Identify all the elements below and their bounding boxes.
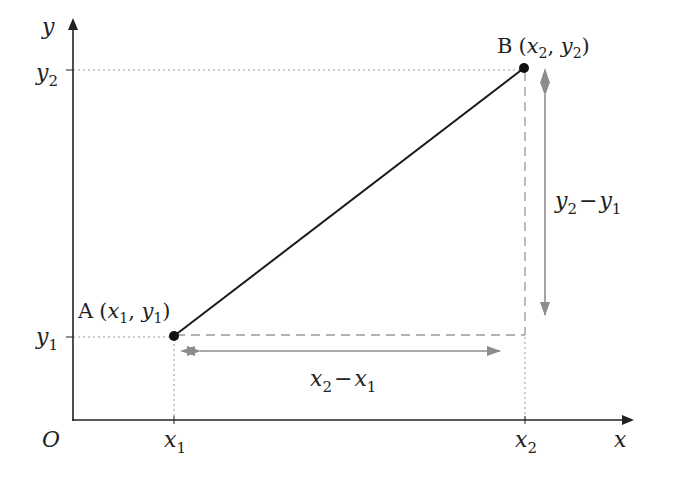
point-b-label: B(x2, y2) xyxy=(497,34,590,61)
arrow-head-left xyxy=(180,346,195,356)
tick-label-x2: x2 xyxy=(515,427,537,457)
point-a xyxy=(169,331,179,341)
tick-label-x1: x1 xyxy=(164,427,186,457)
tick-label-y1: y1 xyxy=(35,324,58,354)
segment-ab xyxy=(174,68,524,336)
x-axis-label: x xyxy=(614,427,627,452)
distance-diagram: y x O y2 y1 x1 x2 A(x1, y1) B(x2, y2) x2… xyxy=(0,0,674,484)
vertical-dimension-label: y2−y1 xyxy=(554,188,621,218)
point-b xyxy=(519,63,529,73)
y-axis-label: y xyxy=(41,14,55,39)
arrow-head-up xyxy=(540,68,550,83)
point-a-label: A(x1, y1) xyxy=(77,299,171,326)
horizontal-dimension-label: x2−x1 xyxy=(310,366,376,396)
guide-lines xyxy=(73,70,525,420)
tick-label-y2: y2 xyxy=(35,60,58,90)
origin-label: O xyxy=(42,427,60,452)
